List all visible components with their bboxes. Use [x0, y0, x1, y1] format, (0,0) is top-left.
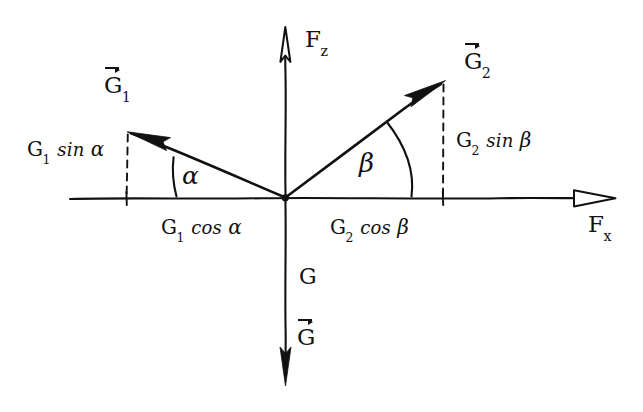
g2-vector-subscript: 2 — [482, 65, 491, 81]
g2-cos-beta-func: cos — [360, 217, 391, 238]
g-vector-label: G — [297, 326, 315, 349]
x-axis-label-subscript: x — [603, 228, 611, 244]
g2-cos-beta-symbol: G — [330, 215, 346, 239]
x-axis-label-symbol: F — [588, 211, 604, 237]
beta-symbol: β — [359, 148, 374, 178]
g1-vertical-projection-dashed — [127, 135, 128, 197]
z-axis-label-symbol: F — [305, 26, 321, 52]
z-axis-arrowhead-icon — [280, 27, 290, 62]
g1-vector-symbol: G — [104, 72, 122, 98]
g1-cos-alpha-symbol: G — [161, 215, 177, 239]
g1-vector-arrow-accent-icon — [105, 67, 119, 69]
g1-vector-group — [127, 132, 283, 197]
alpha-angle-arc — [173, 157, 177, 196]
g2-sin-beta-symbol: G — [456, 128, 472, 152]
z-axis-label: Fz — [305, 28, 328, 55]
g2-sin-beta-func: sin — [486, 130, 513, 151]
beta-angle-label: β — [359, 150, 374, 176]
g-vector-arrow-accent-icon — [298, 319, 312, 321]
g2-vector-group — [288, 81, 446, 196]
g2-vertical-projection-dashed — [443, 85, 444, 197]
g1-sin-alpha-subscript: 1 — [43, 152, 51, 167]
g-vector-symbol: G — [297, 324, 315, 350]
g1-vector-subscript: 1 — [122, 89, 131, 105]
g1-cos-alpha-func: cos — [191, 217, 222, 238]
z-axis-label-subscript: z — [320, 43, 328, 59]
z-axis-group — [280, 27, 290, 196]
g1-cos-alpha-label: G1 cos α — [161, 217, 242, 241]
g1-sin-alpha-label: G1 sin α — [27, 139, 104, 163]
g2-vector-arrow-accent-icon — [465, 43, 479, 45]
g2-sin-beta-angle: β — [520, 128, 532, 152]
beta-angle-arc — [387, 122, 413, 197]
g2-sin-beta-subscript: 2 — [472, 143, 480, 158]
g1-cos-alpha-angle: α — [228, 215, 242, 239]
g2-sin-beta-label: G2 sin β — [456, 130, 531, 154]
x-axis-arrowhead-icon — [574, 190, 616, 206]
g-magnitude-label: G — [299, 266, 317, 288]
g-vector-group — [280, 200, 291, 386]
vector-diagram-svg — [0, 0, 643, 412]
g2-cos-beta-label: G2 cos β — [330, 217, 409, 241]
g1-vector-accent-wrap: G — [104, 74, 122, 97]
g2-vector-label: G2 — [464, 50, 491, 77]
vector-diagram-canvas: Fz Fx G1 G2 G G G1 sin α G2 sin β G1 cos… — [0, 0, 643, 412]
g1-sin-alpha-func: sin — [57, 139, 84, 160]
g1-vector-label: G1 — [104, 74, 131, 101]
g1-vector-arrowhead-icon — [127, 132, 170, 151]
g1-sin-alpha-symbol: G — [27, 137, 43, 161]
x-axis-group — [70, 190, 616, 206]
g-vector-accent-wrap: G — [297, 326, 315, 349]
g2-vector-accent-wrap: G — [464, 50, 482, 73]
x-axis-label: Fx — [588, 213, 612, 240]
g2-vector-symbol: G — [464, 48, 482, 74]
alpha-angle-label: α — [182, 163, 199, 188]
g1-cos-alpha-subscript: 1 — [177, 230, 185, 245]
g2-cos-beta-angle: β — [397, 215, 409, 239]
origin-point — [282, 194, 289, 201]
x-axis-line — [70, 198, 612, 199]
g2-cos-beta-subscript: 2 — [346, 230, 354, 245]
g-magnitude-symbol: G — [299, 264, 317, 289]
alpha-symbol: α — [182, 161, 199, 190]
g1-sin-alpha-angle: α — [91, 137, 105, 161]
